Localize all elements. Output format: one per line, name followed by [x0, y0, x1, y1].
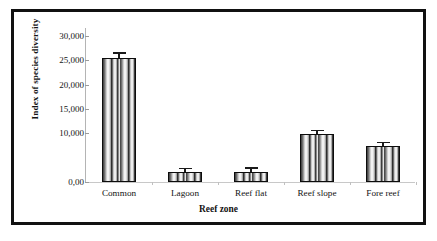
x-tick-label: Reef slope [284, 188, 350, 198]
x-tick-mark [284, 182, 285, 185]
x-tick-mark [350, 182, 351, 185]
bar-group[interactable] [234, 158, 268, 182]
y-tick-mark [85, 85, 89, 86]
y-tick-mark [85, 60, 89, 61]
error-bar-stem [250, 169, 251, 172]
chart-figure: Index of species diversity 30,00025,0002… [0, 0, 437, 241]
bar-group[interactable] [366, 132, 400, 182]
error-bar-stem [118, 54, 119, 58]
bar-group[interactable] [102, 44, 136, 182]
x-tick-label: Common [86, 188, 152, 198]
x-tick-label: Reef flat [218, 188, 284, 198]
y-tick-mark [85, 36, 89, 37]
bar-common[interactable] [102, 58, 136, 182]
x-tick-label: Fore reef [350, 188, 416, 198]
bar-reef-flat[interactable] [234, 172, 268, 182]
error-bar-cap [377, 142, 390, 143]
bar-reef-slope[interactable] [300, 134, 334, 182]
error-bar-cap [179, 168, 192, 169]
error-bar-stem [382, 143, 383, 146]
figure-frame: Index of species diversity 30,00025,0002… [11, 9, 426, 225]
error-bar-cap [311, 130, 324, 131]
x-tick-mark [416, 182, 417, 185]
bar-group[interactable] [168, 158, 202, 182]
bar-lagoon[interactable] [168, 172, 202, 182]
y-tick-mark [85, 109, 89, 110]
error-bar-stem [184, 169, 185, 172]
plot-panel: Index of species diversity 30,00025,0002… [14, 12, 423, 222]
y-tick-mark [85, 133, 89, 134]
y-tick-mark [85, 182, 89, 183]
x-tick-mark [218, 182, 219, 185]
error-bar-stem [316, 131, 317, 134]
x-tick-label-group: CommonLagoonReef flatReef slopeFore reef [14, 188, 423, 202]
bar-group[interactable] [300, 120, 334, 182]
x-tick-label: Lagoon [152, 188, 218, 198]
x-tick-mark [152, 182, 153, 185]
error-bar-cap [113, 52, 126, 53]
x-axis-title: Reef zone [14, 204, 423, 214]
error-bar-cap [245, 167, 258, 168]
bar-fore-reef[interactable] [366, 146, 400, 182]
